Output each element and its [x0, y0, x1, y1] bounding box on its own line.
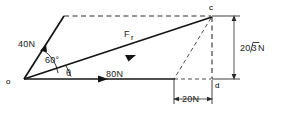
vertical-dimension-label: 20 3 N [240, 43, 265, 54]
force-vector-diagram: 40N 80N F r 60° θ o c d 20 3 N 20N [0, 0, 285, 117]
force-40n-label: 40N [18, 39, 35, 49]
horizontal-dimension-label: 20N [182, 94, 199, 104]
resultant-arrowhead [125, 55, 136, 62]
angle-theta-label: θ [66, 68, 71, 78]
force-80n-label: 80N [106, 69, 123, 79]
vector-diagram-canvas: 40N 80N F r 60° θ o c d 20 3 N 20N [0, 0, 285, 117]
point-origin-label: o [6, 77, 11, 86]
vertical-dimension-suffix: N [258, 43, 265, 53]
resultant-label-subscript: r [131, 33, 134, 42]
point-c-label: c [209, 3, 213, 12]
angle-60-label: 60° [45, 55, 59, 65]
point-d-label: d [215, 81, 219, 90]
resultant-label: F [124, 29, 130, 39]
vertical-dimension-prefix: 20 [240, 43, 250, 53]
